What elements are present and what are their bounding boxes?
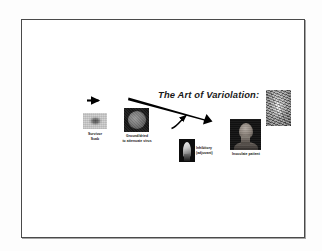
caption-inoculate-patient: Inoculate patient — [218, 152, 274, 157]
photo-grain-overlay — [83, 113, 107, 129]
lancet-photo — [179, 139, 195, 162]
inoculated-patient-photo — [230, 119, 261, 150]
photo-grain-overlay — [230, 119, 261, 150]
slide-canvas: The Art of Variolation: Survivor Scab Gr… — [0, 0, 322, 251]
ground-dried-dish-photo — [124, 108, 149, 132]
caption-survivor-scab: Survivor Scab — [74, 132, 116, 142]
historical-engraving — [266, 90, 291, 126]
caption-ground-dish: Ground/dried to attenuate virus — [116, 134, 158, 144]
slide-frame: The Art of Variolation: Survivor Scab Gr… — [21, 19, 305, 238]
photo-grain-overlay — [124, 108, 149, 132]
survivor-scab-photo — [83, 113, 107, 129]
photo-grain-overlay — [266, 90, 291, 126]
page-title: The Art of Variolation: — [158, 89, 259, 100]
lancet-handle — [184, 154, 190, 161]
